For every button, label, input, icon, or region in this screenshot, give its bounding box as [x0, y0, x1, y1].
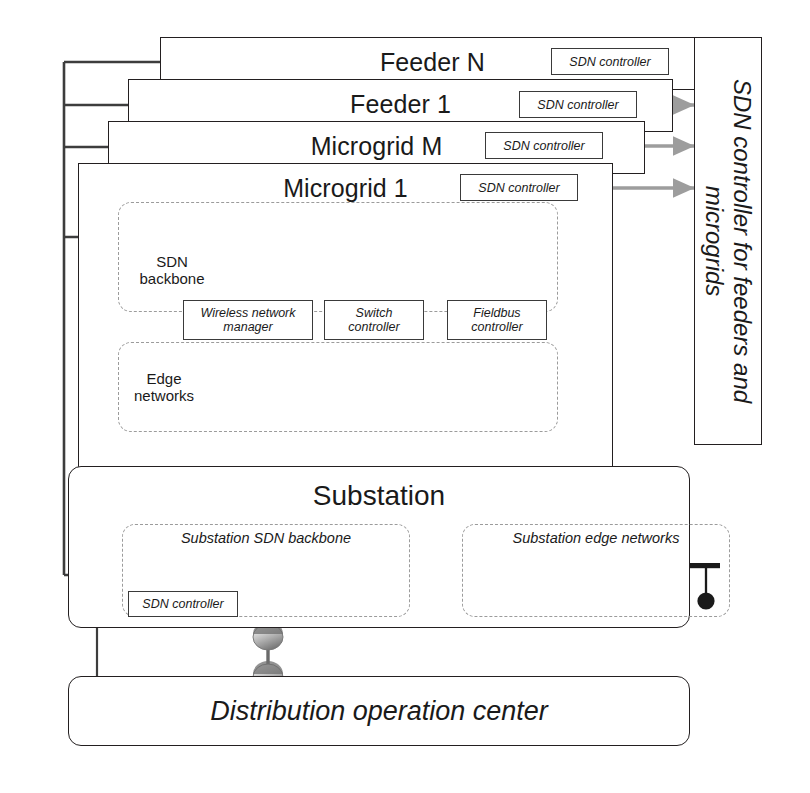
- distribution-operation-center-box[interactable]: Distribution operation center: [68, 676, 690, 746]
- sdn-controller-panel-label: SDN controller for feeders and microgrid…: [700, 56, 756, 426]
- microgrid-edge-networks-label: Edge networks: [126, 370, 202, 405]
- edge-label-line-2: networks: [134, 387, 194, 404]
- fieldbus-controller-line-1: Fieldbus: [473, 306, 520, 320]
- distribution-operation-center-title: Distribution operation center: [69, 696, 689, 727]
- sdn-controller-microgrid-m[interactable]: SDN controller: [485, 132, 603, 159]
- backbone-label-line-1: SDN: [156, 253, 188, 270]
- panel-label-line-2: microgrids: [701, 186, 728, 297]
- sdn-controller-microgrid-1[interactable]: SDN controller: [460, 174, 578, 201]
- switch-controller-line-2: controller: [348, 320, 399, 334]
- substation-sdn-backbone-label: Substation SDN backbone: [122, 530, 410, 547]
- edge-label-line-1: Edge: [146, 370, 181, 387]
- sdn-controller-feeder-1[interactable]: SDN controller: [519, 91, 637, 118]
- substation-edge-networks-label: Substation edge networks: [462, 530, 730, 547]
- fieldbus-controller-box[interactable]: Fieldbus controller: [447, 300, 547, 340]
- wireless-network-manager-box[interactable]: Wireless network manager: [183, 300, 313, 340]
- fieldbus-controller-line-2: controller: [471, 320, 522, 334]
- wireless-network-manager-line-1: Wireless network: [200, 306, 295, 320]
- diagram-canvas: Feeder N Feeder 1 Microgrid M Microgrid …: [0, 0, 810, 793]
- switch-controller-box[interactable]: Switch controller: [324, 300, 424, 340]
- wireless-network-manager-line-2: manager: [223, 320, 272, 334]
- substation-sdn-controller[interactable]: SDN controller: [128, 591, 238, 617]
- panel-label-line-1: SDN controller for feeders and: [729, 79, 756, 403]
- sdn-controller-feeder-n[interactable]: SDN controller: [551, 48, 669, 75]
- substation-title: Substation: [69, 480, 689, 512]
- microgrid-sdn-backbone-label: SDN backbone: [128, 253, 216, 288]
- switch-controller-line-1: Switch: [356, 306, 393, 320]
- backbone-label-line-2: backbone: [139, 270, 204, 287]
- sdn-controller-panel[interactable]: SDN controller for feeders and microgrid…: [694, 37, 762, 445]
